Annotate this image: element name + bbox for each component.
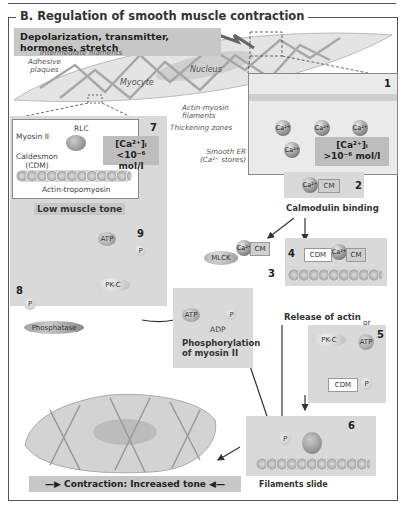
low-muscle-tone-label: Low muscle tone <box>34 203 125 215</box>
phosphatase: Phosphatase <box>24 321 84 334</box>
step3-number: 3 <box>268 268 275 279</box>
atp: ATP <box>98 232 116 246</box>
mlck: MLCK <box>204 251 238 265</box>
release-of-actin-label: Release of actin <box>284 312 361 322</box>
actin-tropomyosin-label: Actin-tropomyosin <box>42 185 110 194</box>
step1-concentration: [Ca²⁺]ᵢ >10⁻⁶ mol/l <box>315 137 389 166</box>
step2-number: 2 <box>355 180 362 191</box>
caldesmon: CDM <box>304 248 332 262</box>
calmodulin-binding-label: Calmodulin binding <box>286 203 379 213</box>
label-myocyte: Myocyte <box>120 79 154 87</box>
atp: ATP <box>182 308 200 322</box>
ca-ion: Ca²⁺ <box>302 177 318 193</box>
result-text: Contraction: Increased tone <box>64 479 206 489</box>
myosin-head <box>302 432 322 454</box>
label-actin-myosin: Actin-myosin filaments <box>182 104 229 120</box>
step8-number: 8 <box>16 285 23 296</box>
ca-ion: Ca²⁺ <box>284 142 300 158</box>
phosphate: P <box>279 433 291 445</box>
pkc: PK-C <box>312 333 346 347</box>
actin-filament <box>256 458 371 470</box>
label-adhesive-plaques: Adhesive plaques <box>28 58 61 74</box>
calmodulin: CM <box>318 179 340 193</box>
caldesmon-label: Caldesmon (CDM) <box>16 152 58 170</box>
phosphate: P <box>226 309 237 320</box>
step9-number: 9 <box>137 228 144 239</box>
conc-2: >10⁻⁶ mol/l <box>324 151 381 161</box>
arrow-left-icon: ◀— <box>206 479 225 489</box>
step7-number: 7 <box>150 122 157 133</box>
phosphate: P <box>24 298 36 310</box>
actin-filament <box>16 170 132 182</box>
pkc: PK-C <box>96 278 130 292</box>
step4-number: 4 <box>288 248 295 259</box>
label-thickening-zones: Thickening zones <box>170 124 232 132</box>
conc-2: <10⁻⁶ mol/l <box>117 150 146 171</box>
filaments-slide-label: Filaments slide <box>259 480 328 490</box>
caldesmon-2: (CDM) <box>25 161 48 170</box>
phos-2: of myosin II <box>182 348 238 358</box>
label-smooth-er: Smooth ER (Ca²⁺ stores) <box>200 148 246 164</box>
step6-number: 6 <box>348 420 355 431</box>
phosphate: P <box>360 377 373 390</box>
ca-ion: Ca²⁺ <box>352 120 368 136</box>
myosin-head <box>66 135 86 151</box>
result-banner: —▶ Contraction: Increased tone ◀— <box>29 476 241 492</box>
step5-number: 5 <box>377 329 384 340</box>
calmodulin: CM <box>250 242 270 256</box>
label-nucleus: Nucleus <box>190 66 222 74</box>
phosphorylation-label: Phosphorylation of myosin II <box>182 338 260 358</box>
membrane <box>249 94 397 101</box>
ca-ion: Ca²⁺ <box>275 120 291 136</box>
label-smooth-er-2: (Ca²⁺ stores) <box>200 155 246 164</box>
conc-1: [Ca²⁺]ᵢ <box>336 140 368 150</box>
arrow-right-icon: —▶ <box>45 479 64 489</box>
conc-1: [Ca²⁺]ᵢ <box>115 139 147 149</box>
rlc-label: RLC <box>74 124 89 133</box>
myosin-label: Myosin II <box>16 132 49 141</box>
caldesmon: CDM <box>328 378 358 392</box>
phos-1: Phosphorylation <box>182 338 260 348</box>
adp-label: ADP <box>210 325 225 334</box>
ca-ion: Ca²⁺ <box>314 120 330 136</box>
or-label: or <box>363 318 371 327</box>
label-adhesive-2: plaques <box>30 65 58 74</box>
ca-ion: Ca²⁺ <box>331 244 347 260</box>
atp: ATP <box>358 334 374 350</box>
phosphate: P <box>135 245 146 256</box>
step7-concentration: [Ca²⁺]ᵢ <10⁻⁶ mol/l <box>103 136 159 165</box>
label-intermediate-filaments: Intermediate filaments <box>40 49 122 57</box>
label-actin-myosin-2: filaments <box>182 111 216 120</box>
caldesmon-1: Caldesmon <box>16 152 58 161</box>
step1-number: 1 <box>384 78 391 89</box>
actin-filament <box>288 269 383 281</box>
calmodulin: CM <box>346 248 366 262</box>
